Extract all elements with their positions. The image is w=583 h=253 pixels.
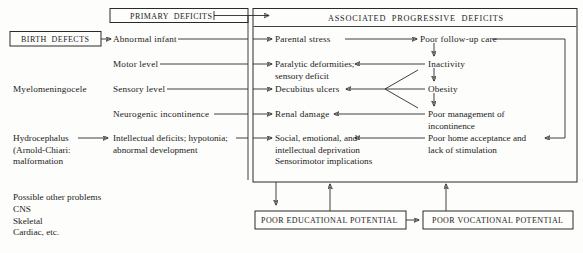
wire-obesity-fan-lower: [385, 89, 418, 108]
primary-item-motor-level: Motor level: [113, 59, 158, 70]
primary-item-abnormal-infant: Abnormal infant: [113, 34, 177, 45]
associated-item-obesity: Obesity: [428, 84, 458, 95]
poor-educational-potential-label: POOR EDUCATIONAL POTENTIAL: [261, 216, 398, 225]
primary-item-neurogenic-incontinence: Neurogenic incontinence: [113, 109, 209, 120]
primary-item-sensory-level: Sensory level: [113, 84, 165, 95]
birth-defects-label: BIRTH DEFECTS: [21, 35, 89, 44]
possible-other-problems-list: Possible other problems CNS Skeletal Car…: [13, 192, 101, 239]
associated-item-poor-home-acceptance: Poor home acceptance and lack of stimula…: [428, 133, 526, 156]
hydrocephalus-label: Hydrocephalus (Arnold-Chiari: malformati…: [13, 133, 71, 168]
associated-item-renal-damage: Renal damage: [275, 109, 330, 120]
primary-deficits-label: PRIMARY DEFICITS: [130, 12, 212, 21]
primary-item-intellectual-deficits: Intellectual deficits; hypotonia; abnorm…: [113, 133, 228, 156]
diagram-canvas: BIRTH DEFECTS PRIMARY DEFICITS ASSOCIATE…: [0, 0, 583, 253]
associated-item-inactivity: Inactivity: [428, 59, 465, 70]
associated-item-social-emotional: Social, emotional, and intellectual depr…: [275, 133, 372, 168]
associated-item-parental-stress: Parental stress: [275, 34, 331, 45]
poor-vocational-potential-label: POOR VOCATIONAL POTENTIAL: [432, 216, 563, 225]
associated-item-paralytic-deformities: Paralytic deformities; sensory deficit: [275, 59, 354, 82]
associated-item-decubitus-ulcers: Decubitus ulcers: [275, 84, 339, 95]
myelomeningocele-label: Myelomeningocele: [13, 84, 87, 95]
associated-progressive-deficits-label: ASSOCIATED PROGRESSIVE DEFICITS: [328, 14, 504, 23]
associated-item-poor-management-incontinence: Poor management of incontinence: [428, 109, 505, 132]
associated-item-poor-followup-care: Poor follow-up care: [420, 34, 497, 45]
wire-obesity-fan-upper: [385, 70, 418, 89]
